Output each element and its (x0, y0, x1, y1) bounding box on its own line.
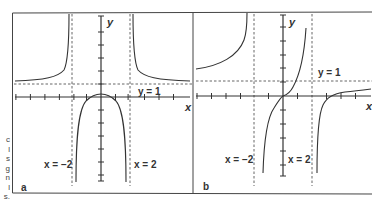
figure: y x y = 1 x = −2 x = 2 a (0, 0, 372, 199)
horizontal-asymptote-label: y = 1 (318, 67, 341, 78)
panel-a-curves (15, 14, 190, 182)
vertical-asymptote-label-right: x = 2 (288, 154, 311, 165)
panel-b: y x y = 1 x = −2 x = 2 b (196, 13, 372, 192)
curve-right-branch (133, 14, 190, 81)
vertical-asymptote-label-left: x = −2 (225, 154, 254, 165)
curve-left-branch (196, 13, 247, 69)
curve-right-branch (317, 89, 371, 173)
x-axis-label: x (184, 101, 192, 113)
panel-label: a (21, 182, 27, 193)
vertical-asymptote-label-left: x = −2 (44, 159, 73, 170)
panel-label: b (203, 181, 209, 192)
horizontal-asymptote-label: y = 1 (138, 86, 161, 97)
y-axis-label: y (288, 16, 296, 28)
curve-left-branch (15, 14, 69, 81)
y-axis-label: y (106, 16, 114, 28)
x-axis-label: x (365, 100, 372, 112)
panel-a: y x y = 1 x = −2 x = 2 a (14, 14, 192, 193)
vertical-asymptote-label-right: x = 2 (134, 159, 157, 170)
